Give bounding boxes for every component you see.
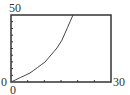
- data-curve: [11, 15, 73, 82]
- plot-frame: [11, 15, 111, 82]
- axis-ticks: [11, 22, 94, 82]
- plot-area: [0, 0, 130, 95]
